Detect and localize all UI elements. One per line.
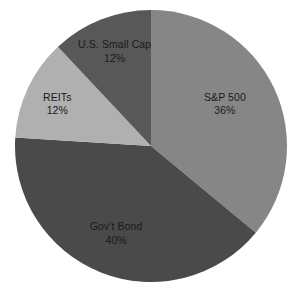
pie-chart-canvas bbox=[0, 0, 294, 301]
pie-chart: S&P 50036%Gov't Bond40%REITs12%U.S. Smal… bbox=[0, 0, 294, 301]
pie-slice-group bbox=[15, 10, 287, 282]
